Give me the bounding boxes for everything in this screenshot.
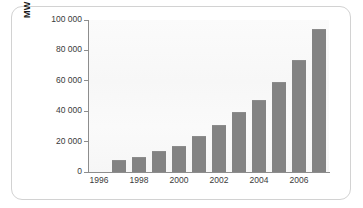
bar [112,160,126,172]
y-axis-tick-label: 40 000 [28,106,82,115]
y-axis-tick-label: 20 000 [28,137,82,146]
bar [172,146,186,172]
bar-series [89,20,329,172]
x-axis-tick-label: 1996 [90,175,109,185]
chart-figure: MW 020 00040 00060 00080 000100 000 1996… [0,0,363,208]
y-axis-tick [84,111,89,112]
bar [232,112,246,172]
y-axis-tick-label: 100 000 [28,15,82,24]
y-axis-tick-label: 0 [28,167,82,176]
bar [252,100,266,172]
y-axis-tick [84,141,89,142]
x-axis-tick-label: 1998 [130,175,149,185]
x-axis-tick-label: 2002 [210,175,229,185]
y-axis-tick [84,50,89,51]
y-axis-tick [84,20,89,21]
y-axis-tick [84,80,89,81]
y-axis-tick-labels: 020 00040 00060 00080 000100 000 [24,0,82,208]
bar [192,136,206,172]
x-axis-tick-label: 2006 [290,175,309,185]
y-axis-tick [84,172,89,173]
y-axis-tick-label: 60 000 [28,76,82,85]
x-axis-line [88,172,330,173]
bar [212,125,226,172]
bar [292,60,306,172]
x-axis-tick-labels: 199619982000200220042006 [89,175,329,191]
x-axis-tick-label: 2004 [250,175,269,185]
bar [272,82,286,172]
x-axis-tick-label: 2000 [170,175,189,185]
bar [312,29,326,172]
bar [132,157,146,173]
y-axis-tick-label: 80 000 [28,45,82,54]
bar [152,151,166,172]
